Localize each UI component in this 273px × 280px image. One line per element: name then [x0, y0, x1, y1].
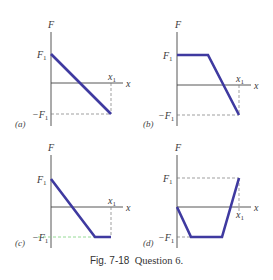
- caption-text: Question 6.: [135, 255, 183, 266]
- panel-label: (b): [143, 119, 154, 129]
- x-axis-label: x: [253, 202, 259, 213]
- neg-f1-label: −F1: [158, 110, 175, 123]
- f1-label: F1: [162, 50, 173, 63]
- panel-a: F x F1 −F1 x1 (a): [15, 19, 131, 129]
- figure-diagrams: F x F1 −F1 x1 (a) F x F1 −F1 x1 (b) F x …: [0, 0, 273, 255]
- force-curve: [177, 178, 239, 237]
- neg-f1-label: −F1: [32, 232, 49, 245]
- y-axis-label: F: [174, 142, 182, 153]
- x1-label: x1: [107, 195, 116, 208]
- y-axis-label: F: [47, 142, 55, 153]
- force-curve: [51, 179, 111, 237]
- panel-label: (a): [15, 119, 26, 129]
- x-axis-label: x: [125, 202, 131, 213]
- f1-label: F1: [36, 174, 47, 187]
- y-axis-label: F: [47, 19, 55, 30]
- panel-d: F x F1 −F1 x1 (d): [143, 142, 259, 248]
- x1-label: x1: [235, 209, 244, 222]
- figure-number: Fig. 7-18: [90, 255, 129, 266]
- panel-label: (c): [15, 238, 25, 248]
- force-curve: [51, 54, 111, 114]
- figure-caption: Fig. 7-18 Question 6.: [0, 255, 273, 266]
- x-axis-label: x: [253, 80, 259, 91]
- x-axis-label: x: [125, 78, 131, 89]
- panel-label: (d): [143, 238, 154, 248]
- neg-f1-label: −F1: [158, 232, 175, 245]
- f1-label: F1: [36, 49, 47, 62]
- neg-f1-label: −F1: [32, 109, 49, 122]
- panel-b: F x F1 −F1 x1 (b): [143, 19, 259, 129]
- panel-c: F x F1 −F1 x1 (c): [15, 142, 131, 248]
- y-axis-label: F: [174, 19, 182, 30]
- f1-label: F1: [162, 173, 173, 186]
- x1-label: x1: [235, 73, 244, 86]
- x1-label: x1: [107, 71, 116, 84]
